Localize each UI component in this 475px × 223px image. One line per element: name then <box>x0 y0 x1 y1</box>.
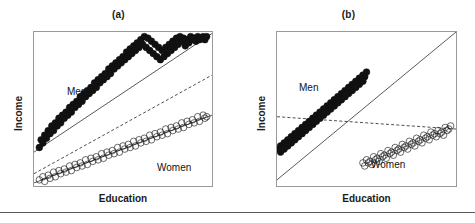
panel-a-women-label: Women <box>157 162 191 173</box>
figure-two-panel-scatter: (a) Income Men Women Education (b) Incom… <box>0 0 475 223</box>
panel-b: (b) Income Men Women Education <box>238 0 475 213</box>
data-point <box>363 69 370 76</box>
panel-a-x-axis-label: Education <box>33 193 213 205</box>
panel-b-plot-svg <box>277 32 456 186</box>
data-point <box>203 113 210 120</box>
panel-b-plot-area <box>276 31 457 187</box>
series-men-markers <box>277 69 370 156</box>
data-point <box>360 78 367 85</box>
panel-a-title: (a) <box>15 9 222 21</box>
panel-a-men-label: Men <box>67 86 86 97</box>
within-group-slope-line <box>277 32 456 180</box>
panel-b-men-label: Men <box>299 82 318 93</box>
panel-a: (a) Income Men Women Education <box>0 0 237 213</box>
panel-a-y-axis-label: Income <box>13 96 24 131</box>
data-point <box>203 33 210 40</box>
panel-b-x-axis-label: Education <box>276 193 457 205</box>
panel-b-title: (b) <box>230 9 467 21</box>
panel-b-y-axis-label: Income <box>256 96 267 131</box>
panel-b-women-label: Women <box>371 159 405 170</box>
footer-divider <box>0 212 475 213</box>
